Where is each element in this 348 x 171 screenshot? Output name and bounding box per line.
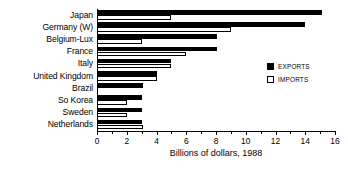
category-label: Brazil	[0, 84, 93, 93]
bar-group	[97, 119, 335, 131]
category-label: France	[0, 47, 93, 56]
bar-exports	[97, 108, 142, 113]
x-tick-label: 16	[330, 137, 339, 146]
legend-swatch-imports-icon	[267, 76, 274, 83]
x-tick	[246, 131, 247, 135]
bar-exports	[97, 71, 157, 76]
bar-imports	[97, 125, 143, 130]
x-tick	[335, 131, 336, 135]
category-label: Japan	[0, 11, 93, 20]
bar-exports	[97, 95, 142, 100]
x-tick-minor	[320, 131, 321, 134]
legend-item-imports: IMPORTS	[267, 74, 337, 84]
x-tick-label: 4	[154, 137, 159, 146]
bar-exports	[97, 34, 217, 39]
x-tick-label: 12	[271, 137, 280, 146]
x-tick-minor	[261, 131, 262, 134]
x-tick	[305, 131, 306, 135]
x-tick	[127, 131, 128, 135]
x-tick-minor	[142, 131, 143, 134]
bar-exports	[97, 59, 171, 64]
bar-exports	[97, 83, 143, 88]
bar-imports	[97, 76, 157, 81]
x-tick	[216, 131, 217, 135]
x-tick-label: 14	[301, 137, 310, 146]
category-label: Germany (W)	[0, 23, 93, 32]
x-tick	[276, 131, 277, 135]
x-tick-label: 8	[214, 137, 219, 146]
bar-chart: JapanGermany (W)Belgium-LuxFranceItalyUn…	[0, 0, 348, 171]
bar-imports	[97, 27, 231, 32]
x-tick	[186, 131, 187, 135]
legend-label-exports: EXPORTS	[278, 63, 310, 70]
category-label: United Kingdom	[0, 72, 93, 81]
bar-group	[97, 9, 335, 21]
category-label: Italy	[0, 59, 93, 68]
bar-imports	[97, 15, 171, 20]
bar-imports	[97, 52, 186, 57]
legend-label-imports: IMPORTS	[278, 76, 308, 83]
category-label: So Korea	[0, 96, 93, 105]
category-axis-labels: JapanGermany (W)Belgium-LuxFranceItalyUn…	[0, 9, 93, 131]
x-tick-label: 6	[184, 137, 189, 146]
legend-item-exports: EXPORTS	[267, 61, 337, 71]
x-tick-label: 2	[124, 137, 129, 146]
bar-exports	[97, 120, 142, 125]
bar-exports	[97, 10, 322, 15]
x-tick-minor	[112, 131, 113, 134]
x-tick	[157, 131, 158, 135]
category-label: Belgium-Lux	[0, 35, 93, 44]
bar-imports	[97, 100, 127, 105]
x-tick-label: 0	[95, 137, 100, 146]
legend-swatch-exports-icon	[267, 63, 274, 70]
bar-exports	[97, 22, 305, 27]
category-label: Netherlands	[0, 120, 93, 129]
bar-exports	[97, 47, 217, 52]
category-label: Sweden	[0, 108, 93, 117]
chart-legend: EXPORTS IMPORTS	[267, 61, 337, 87]
x-tick-minor	[290, 131, 291, 134]
x-tick-label: 10	[241, 137, 250, 146]
bar-imports	[97, 113, 127, 118]
bar-group	[97, 46, 335, 58]
x-axis-title: Billions of dollars, 1988	[97, 148, 335, 158]
x-tick	[97, 131, 98, 135]
x-axis-ticks	[97, 131, 335, 135]
bar-group	[97, 21, 335, 33]
x-tick-minor	[171, 131, 172, 134]
x-tick-minor	[201, 131, 202, 134]
bar-group	[97, 33, 335, 45]
bar-group	[97, 107, 335, 119]
bar-group	[97, 94, 335, 106]
bar-imports	[97, 64, 171, 69]
bar-imports	[97, 39, 142, 44]
x-tick-minor	[231, 131, 232, 134]
